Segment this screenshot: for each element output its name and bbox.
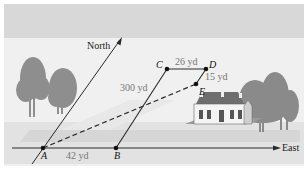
distance-cd-label: 26 yd [175,57,198,67]
diagram-canvas [0,0,307,173]
vector-diagram: North East A B C D E 42 yd 300 yd 26 yd … [0,0,307,173]
distance-ab-label: 42 yd [66,151,89,161]
point-e [194,82,199,87]
point-a-label: A [41,151,47,161]
point-c [165,67,170,72]
sky-band [4,4,304,38]
point-b-label: B [114,151,120,161]
point-d-label: D [209,60,216,70]
north-label: North [87,41,110,51]
east-label: East [282,143,299,153]
distance-de-label: 15 yd [205,72,228,82]
point-e-label: E [199,87,205,97]
distance-bc-label: 300 yd [120,83,148,93]
point-c-label: C [156,60,163,70]
